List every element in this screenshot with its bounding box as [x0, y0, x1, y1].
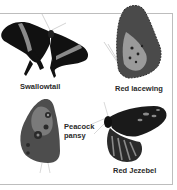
- red-jezebel-caption: Red Jezebel: [113, 166, 156, 175]
- swallowtail-antennae: [42, 14, 66, 30]
- frame-bottom-line: [0, 184, 173, 185]
- peacock-pansy-legs: [40, 163, 50, 173]
- swallowtail-body: [48, 30, 54, 38]
- swallowtail-caption: Swallowtail: [20, 82, 60, 91]
- frame-right-line: [172, 13, 173, 185]
- red-lacewing-caption: Red lacewing: [115, 84, 163, 93]
- swallowtail-illustration: [0, 10, 92, 82]
- red-lacewing-illustration: [100, 2, 166, 82]
- red-jezebel-illustration: [90, 102, 170, 164]
- peacock-pansy-illustration: [16, 97, 66, 173]
- red-jezebel-body: [104, 116, 112, 128]
